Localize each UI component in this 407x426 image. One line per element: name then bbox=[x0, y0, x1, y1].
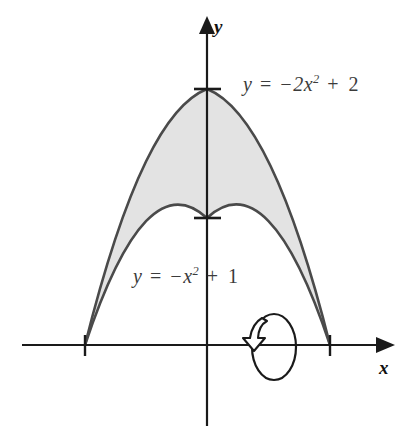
rotation-arrow-icon bbox=[243, 314, 296, 380]
upper-eq-exponent: 2 bbox=[313, 72, 320, 86]
lower-eq-term: −x bbox=[169, 265, 192, 287]
equation-label-lower-curve: y = −x2 + 1 bbox=[133, 264, 241, 288]
upper-eq-constant: 2 bbox=[347, 73, 362, 95]
plot-canvas bbox=[0, 0, 407, 426]
lower-eq-equals: = bbox=[148, 265, 164, 287]
equation-label-upper-curve: y = −2x2 + 2 bbox=[243, 72, 361, 96]
upper-eq-term: −2x bbox=[279, 73, 313, 95]
y-axis-label: y bbox=[214, 16, 222, 38]
upper-eq-variable: y bbox=[243, 73, 252, 95]
upper-eq-plus: + bbox=[325, 73, 341, 95]
upper-eq-equals: = bbox=[258, 73, 274, 95]
x-axis-arrowhead bbox=[376, 337, 395, 353]
y-axis-arrowhead bbox=[199, 16, 215, 34]
lower-eq-constant: 1 bbox=[226, 265, 241, 287]
lower-eq-variable: y bbox=[133, 265, 142, 287]
parabola-region-figure: y = −2x2 + 2 y = −x2 + 1 y x bbox=[0, 0, 407, 426]
x-axis-label: x bbox=[379, 357, 389, 379]
lower-eq-plus: + bbox=[205, 265, 221, 287]
lower-eq-exponent: 2 bbox=[193, 264, 200, 278]
